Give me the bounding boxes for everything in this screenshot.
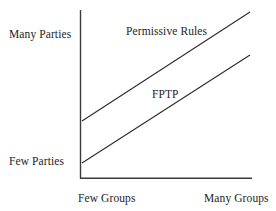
series-label-permissive-rules: Permissive Rules [126, 25, 207, 38]
x-axis-right-tick-label: Many Groups [204, 192, 269, 205]
line-diagram-figure: Many Parties Few Parties Few Groups Many… [0, 0, 276, 211]
y-axis-top-tick-label: Many Parties [9, 28, 71, 41]
series-label-fptp: FPTP [152, 88, 179, 101]
series-line-fptp [82, 55, 250, 163]
y-axis-bottom-tick-label: Few Parties [9, 155, 64, 168]
x-axis-left-tick-label: Few Groups [78, 192, 136, 205]
